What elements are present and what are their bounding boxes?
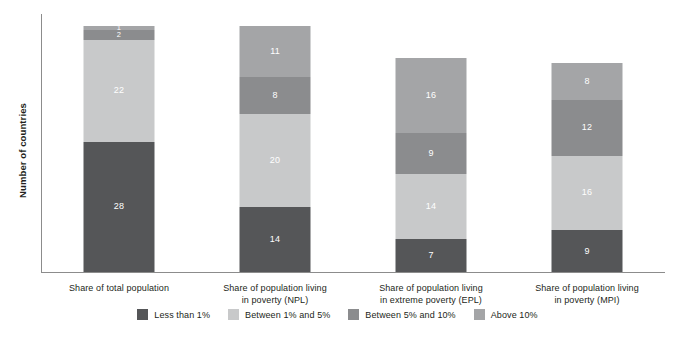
x-axis-category-label-line: in extreme poverty (EPL) (341, 295, 521, 307)
stacked-bar[interactable]: 1182014 (240, 26, 311, 272)
x-axis-category-label: Share of population livingin poverty (NP… (185, 283, 365, 306)
bar-segment[interactable]: 20 (240, 114, 311, 207)
bar-segment-value: 9 (428, 149, 433, 158)
x-axis-category-label-line: Share of population living (497, 283, 675, 295)
bar-segment[interactable]: 14 (396, 174, 467, 239)
bar-segment[interactable]: 9 (552, 230, 623, 272)
stacked-bar[interactable]: 812169 (552, 63, 623, 272)
stacked-bar-chart: Number of countries 12222811820141691478… (0, 0, 675, 338)
chart-legend: Less than 1%Between 1% and 5%Between 5% … (0, 309, 675, 320)
stacked-bar[interactable]: 122228 (84, 26, 155, 272)
bar-segment[interactable]: 8 (240, 77, 311, 114)
bar-segment[interactable]: 28 (84, 142, 155, 272)
legend-swatch-icon (228, 309, 239, 320)
bar-segment[interactable]: 16 (396, 58, 467, 132)
bar-segment-value: 16 (582, 188, 592, 197)
bar-group: 169147 (353, 14, 509, 272)
x-axis-category-label-line: Share of population living (185, 283, 365, 295)
bar-segment-value: 2 (117, 31, 121, 39)
legend-label: Between 5% and 10% (365, 310, 455, 320)
bar-segment[interactable]: 7 (396, 239, 467, 272)
x-axis-category-label-line: Share of total population (29, 283, 209, 295)
bar-segment-value: 14 (270, 235, 280, 244)
legend-item[interactable]: Above 10% (474, 309, 538, 320)
bar-segment-value: 11 (270, 47, 280, 56)
legend-item[interactable]: Less than 1% (137, 309, 210, 320)
bar-segment-value: 9 (584, 247, 589, 256)
x-axis-category-label-line: Share of population living (341, 283, 521, 295)
legend-item[interactable]: Between 1% and 5% (228, 309, 330, 320)
bar-segment[interactable]: 8 (552, 63, 623, 100)
legend-label: Between 1% and 5% (245, 310, 330, 320)
bar-segment[interactable]: 22 (84, 40, 155, 142)
legend-item[interactable]: Between 5% and 10% (348, 309, 455, 320)
legend-label: Above 10% (491, 310, 538, 320)
x-axis-category-label: Share of population livingin extreme pov… (341, 283, 521, 306)
x-axis-category-label-line: in poverty (NPL) (185, 295, 365, 307)
legend-label: Less than 1% (154, 310, 210, 320)
bar-segment-value: 7 (428, 251, 433, 260)
x-axis-category-label-line: in poverty (MPI) (497, 295, 675, 307)
bar-segment-value: 28 (114, 202, 124, 211)
bar-segment[interactable]: 2 (84, 30, 155, 39)
bar-group: 812169 (509, 14, 665, 272)
legend-swatch-icon (137, 309, 148, 320)
bar-segment-value: 12 (582, 123, 592, 132)
bar-segment[interactable]: 9 (396, 133, 467, 175)
bar-group: 122228 (41, 14, 197, 272)
bar-segment[interactable]: 12 (552, 100, 623, 156)
bar-segment-value: 20 (270, 156, 280, 165)
bar-segment[interactable]: 11 (240, 26, 311, 77)
legend-swatch-icon (474, 309, 485, 320)
y-axis-title: Number of countries (17, 71, 28, 231)
bar-group: 1182014 (197, 14, 353, 272)
bar-segment-value: 8 (272, 91, 277, 100)
stacked-bar[interactable]: 169147 (396, 58, 467, 272)
cropped-title-strip (0, 0, 675, 5)
bar-segment[interactable]: 14 (240, 207, 311, 272)
bar-segment-value: 16 (426, 91, 436, 100)
bar-segment[interactable]: 16 (552, 156, 623, 230)
bar-segment-value: 8 (584, 77, 589, 86)
bar-segment-value: 14 (426, 202, 436, 211)
x-axis-category-label: Share of total population (29, 283, 209, 295)
x-axis-category-label: Share of population livingin poverty (MP… (497, 283, 675, 306)
x-axis-line (41, 272, 665, 273)
bar-segment-value: 22 (114, 86, 124, 95)
legend-swatch-icon (348, 309, 359, 320)
plot-area: 1222281182014169147812169 (41, 14, 665, 272)
